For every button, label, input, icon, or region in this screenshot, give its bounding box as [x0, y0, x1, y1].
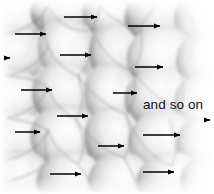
tessellation-canvas	[0, 0, 214, 194]
left-edge-fade	[0, 0, 214, 194]
figure-container: and so on	[0, 0, 214, 194]
